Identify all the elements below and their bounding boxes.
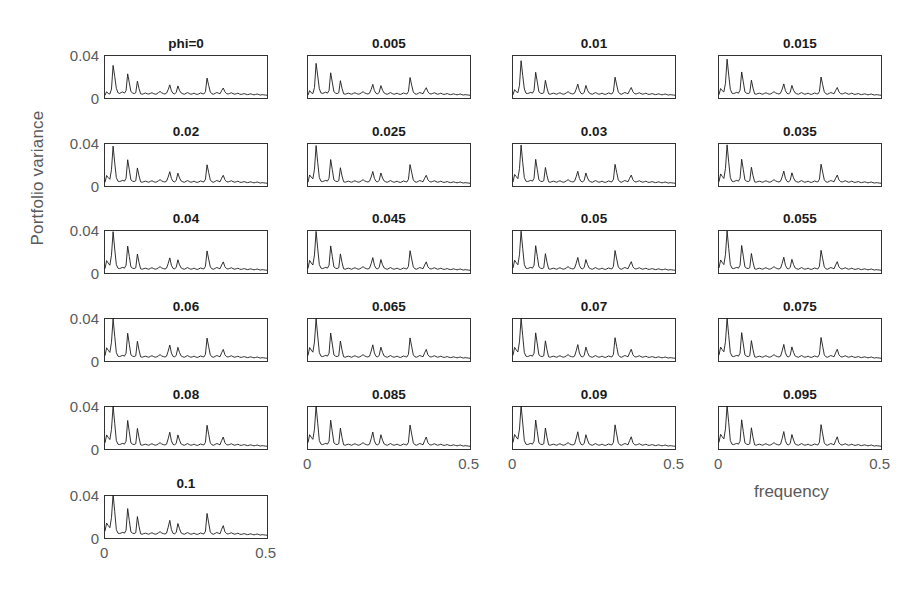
panel-title: 0.05 <box>512 211 676 226</box>
spectrum-line <box>104 230 268 274</box>
spectrum-line <box>512 143 676 187</box>
x-tick-label-min: 0 <box>303 456 311 471</box>
y-tick-label-min: 0 <box>91 266 99 281</box>
subplot-panel: 0.040.040 <box>104 230 268 274</box>
subplot-panel: 0.060.040 <box>104 318 268 362</box>
spectrum-line <box>307 406 471 450</box>
spectrum-line <box>307 318 471 362</box>
subplot-panel: 0.080.040 <box>104 406 268 450</box>
y-axis-label: Portfolio variance <box>28 78 48 278</box>
panel-title: 0.085 <box>307 387 471 402</box>
x-tick-label-min: 0 <box>100 545 108 560</box>
panel-title: 0.005 <box>307 36 471 51</box>
subplot-panel: 0.01 <box>512 55 676 99</box>
subplot-panel: 0.10.04000.5 <box>104 495 268 539</box>
y-tick-label-max: 0.04 <box>70 136 99 151</box>
spectrum-line <box>104 406 268 450</box>
y-tick-label-min: 0 <box>91 354 99 369</box>
subplot-panel: 0.005 <box>307 55 471 99</box>
spectrum-line <box>307 230 471 274</box>
y-tick-label-max: 0.04 <box>70 311 99 326</box>
spectrum-line <box>104 143 268 187</box>
panel-title: 0.09 <box>512 387 676 402</box>
subplot-panel: 0.09500.5 <box>718 406 882 450</box>
spectrum-line <box>512 318 676 362</box>
panel-title: 0.015 <box>718 36 882 51</box>
subplot-panel: 0.08500.5 <box>307 406 471 450</box>
subplot-panel: phi=00.040 <box>104 55 268 99</box>
panel-title: 0.075 <box>718 299 882 314</box>
panel-title: 0.08 <box>104 387 268 402</box>
panel-title: 0.035 <box>718 124 882 139</box>
subplot-panel: 0.015 <box>718 55 882 99</box>
y-tick-label-min: 0 <box>91 91 99 106</box>
subplot-panel: 0.065 <box>307 318 471 362</box>
panel-title: 0.045 <box>307 211 471 226</box>
panel-title: 0.04 <box>104 211 268 226</box>
y-tick-label-max: 0.04 <box>70 223 99 238</box>
spectrum-line <box>718 230 882 274</box>
x-tick-label-max: 0.5 <box>663 456 684 471</box>
subplot-panel: 0.075 <box>718 318 882 362</box>
y-tick-label-max: 0.04 <box>70 488 99 503</box>
subplot-panel: 0.05 <box>512 230 676 274</box>
panel-title: 0.07 <box>512 299 676 314</box>
spectrum-line <box>718 143 882 187</box>
x-tick-label-min: 0 <box>508 456 516 471</box>
spectrum-line <box>307 143 471 187</box>
spectrum-line <box>104 55 268 99</box>
spectrum-line <box>512 55 676 99</box>
subplot-panel: 0.035 <box>718 143 882 187</box>
panel-title: 0.055 <box>718 211 882 226</box>
subplot-panel: 0.025 <box>307 143 471 187</box>
panel-title: 0.025 <box>307 124 471 139</box>
panel-title: 0.1 <box>104 476 268 491</box>
x-tick-label-max: 0.5 <box>255 545 276 560</box>
y-tick-label-min: 0 <box>91 179 99 194</box>
spectrum-line <box>718 406 882 450</box>
panel-title: 0.02 <box>104 124 268 139</box>
spectrum-line <box>718 318 882 362</box>
x-tick-label-min: 0 <box>714 456 722 471</box>
panel-title: 0.095 <box>718 387 882 402</box>
subplot-panel: 0.020.040 <box>104 143 268 187</box>
y-tick-label-max: 0.04 <box>70 48 99 63</box>
panel-title: phi=0 <box>104 36 268 51</box>
panel-title: 0.01 <box>512 36 676 51</box>
spectrum-line <box>512 406 676 450</box>
subplot-panel: 0.07 <box>512 318 676 362</box>
y-tick-label-min: 0 <box>91 442 99 457</box>
spectrum-line <box>104 318 268 362</box>
spectral-panel-figure: Portfolio variance phi=00.0400.0050.010.… <box>0 0 924 594</box>
subplot-panel: 0.055 <box>718 230 882 274</box>
y-tick-label-max: 0.04 <box>70 399 99 414</box>
y-tick-label-min: 0 <box>91 531 99 546</box>
panel-title: 0.03 <box>512 124 676 139</box>
x-tick-label-max: 0.5 <box>869 456 890 471</box>
x-tick-label-max: 0.5 <box>458 456 479 471</box>
panel-title: 0.06 <box>104 299 268 314</box>
subplot-panel: 0.0900.5 <box>512 406 676 450</box>
subplot-panel: 0.045 <box>307 230 471 274</box>
spectrum-line <box>512 230 676 274</box>
spectrum-line <box>307 55 471 99</box>
spectrum-line <box>718 55 882 99</box>
subplot-panel: 0.03 <box>512 143 676 187</box>
panel-title: 0.065 <box>307 299 471 314</box>
x-axis-label: frequency <box>754 482 829 502</box>
spectrum-line <box>104 495 268 539</box>
